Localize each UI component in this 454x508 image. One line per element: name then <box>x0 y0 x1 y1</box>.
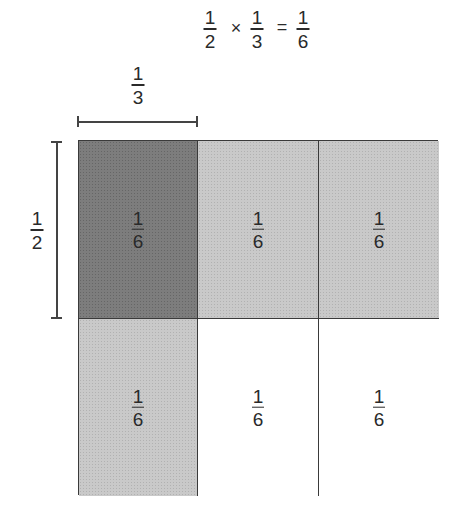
height-dimension-bracket <box>56 142 58 318</box>
equation-term2-fraction: 1 3 <box>251 8 264 51</box>
fraction-bar <box>297 28 310 30</box>
grid-cell-r2-c1: 1 6 <box>79 319 198 496</box>
grid-cell-r1-c1: 1 6 <box>79 141 198 319</box>
area-model-grid: 1 6 1 6 1 6 1 6 1 6 1 <box>78 140 438 495</box>
fraction-bar <box>204 28 217 30</box>
height-bracket-top-cap <box>51 141 62 143</box>
fraction-bar <box>373 406 385 408</box>
denominator: 2 <box>32 233 43 252</box>
denominator: 3 <box>133 88 144 107</box>
cell-fraction: 1 6 <box>252 386 264 429</box>
numerator: 1 <box>374 208 385 227</box>
denominator: 6 <box>133 410 144 429</box>
fraction-bar <box>373 228 385 230</box>
fraction-bar <box>251 28 264 30</box>
denominator: 6 <box>133 232 144 251</box>
fraction-bar <box>252 406 264 408</box>
denominator: 6 <box>253 232 264 251</box>
cell-fraction: 1 6 <box>373 386 385 429</box>
fraction-bar <box>132 84 145 86</box>
denominator: 6 <box>374 410 385 429</box>
equation-result-fraction: 1 6 <box>297 8 310 51</box>
numerator: 1 <box>253 208 264 227</box>
fraction-bar <box>252 228 264 230</box>
cell-fraction: 1 6 <box>373 208 385 251</box>
fraction-bar <box>31 229 44 231</box>
grid-cell-r1-c2: 1 6 <box>198 141 319 319</box>
multiply-operator: × <box>231 19 242 37</box>
fraction-bar <box>132 228 144 230</box>
width-bracket-left-cap <box>77 116 79 127</box>
numerator: 1 <box>133 64 144 83</box>
denominator: 6 <box>298 32 309 51</box>
denominator: 3 <box>252 32 263 51</box>
denominator: 2 <box>205 32 216 51</box>
fraction-bar <box>132 406 144 408</box>
equation-term1-fraction: 1 2 <box>204 8 217 51</box>
height-dimension-label: 1 2 <box>31 209 44 252</box>
height-bracket-bottom-cap <box>51 317 62 319</box>
numerator: 1 <box>32 209 43 228</box>
width-dimension-bracket <box>77 121 197 123</box>
width-bracket-right-cap <box>196 116 198 127</box>
numerator: 1 <box>133 386 144 405</box>
numerator: 1 <box>133 208 144 227</box>
width-dimension-label: 1 3 <box>132 64 145 107</box>
denominator: 6 <box>374 232 385 251</box>
cell-fraction: 1 6 <box>252 208 264 251</box>
cell-fraction: 1 6 <box>132 386 144 429</box>
numerator: 1 <box>205 8 216 27</box>
numerator: 1 <box>252 8 263 27</box>
grid-cell-r2-c3: 1 6 <box>319 319 439 496</box>
numerator: 1 <box>298 8 309 27</box>
grid-cell-r1-c3: 1 6 <box>319 141 439 319</box>
grid-cell-r2-c2: 1 6 <box>198 319 319 496</box>
numerator: 1 <box>374 386 385 405</box>
denominator: 6 <box>253 410 264 429</box>
equals-operator: = <box>277 18 288 36</box>
numerator: 1 <box>253 386 264 405</box>
cell-fraction: 1 6 <box>132 208 144 251</box>
